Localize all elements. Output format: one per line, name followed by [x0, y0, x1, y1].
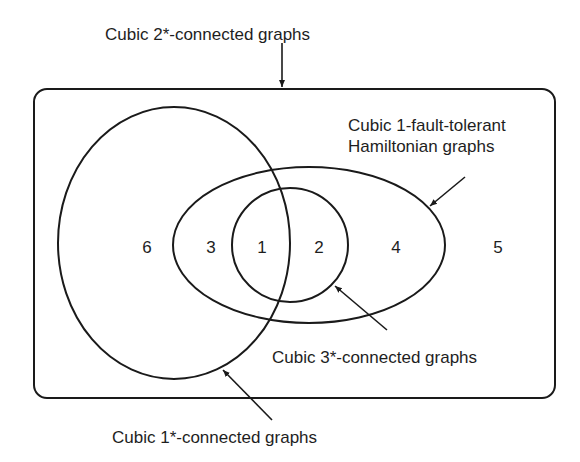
label-cubic-1-fault-tolerant: Cubic 1-fault-tolerant	[348, 116, 506, 135]
label-cubic-2star-connected: Cubic 2*-connected graphs	[105, 25, 310, 44]
arrow-to-3star-circle	[335, 286, 387, 330]
region-1-label: 1	[257, 238, 266, 257]
label-hamiltonian-graphs: Hamiltonian graphs	[348, 137, 494, 156]
region-2-label: 2	[314, 238, 323, 257]
region-4-label: 4	[391, 238, 400, 257]
region-3-label: 3	[206, 238, 215, 257]
venn-diagram: 6 3 1 2 4 5 Cubic 2*-connected graphs Cu…	[0, 0, 580, 462]
label-cubic-1star-connected: Cubic 1*-connected graphs	[112, 428, 317, 447]
arrow-to-hamiltonian-ellipse	[430, 177, 465, 206]
arrow-to-1star-ellipse	[223, 370, 272, 420]
region-5-label: 5	[493, 238, 502, 257]
label-cubic-3star-connected: Cubic 3*-connected graphs	[272, 348, 477, 367]
region-6-label: 6	[142, 238, 151, 257]
